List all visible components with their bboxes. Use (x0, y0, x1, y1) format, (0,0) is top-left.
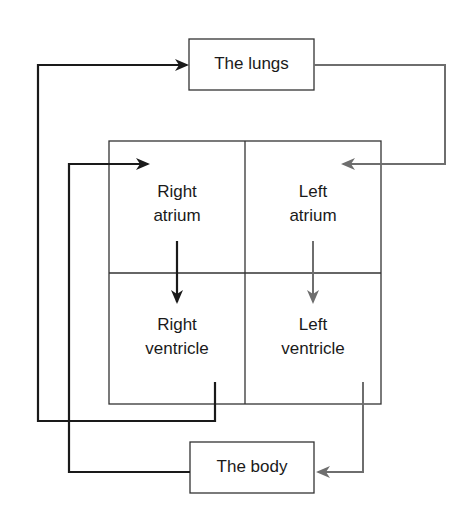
left-atrium-line1: Left (245, 180, 381, 204)
left-ventricle-line2: ventricle (245, 337, 381, 361)
right-ventricle-label: Right ventricle (109, 313, 245, 361)
circulation-diagram (0, 0, 463, 511)
arrow-left-ventricle-to-body (318, 382, 363, 472)
arrow-right-ventricle-to-lungs (38, 65, 215, 421)
left-atrium-line2: atrium (245, 204, 381, 228)
right-ventricle-line1: Right (109, 313, 245, 337)
body-label: The body (190, 455, 314, 479)
right-ventricle-line2: ventricle (109, 337, 245, 361)
right-atrium-label: Right atrium (109, 180, 245, 228)
left-ventricle-line1: Left (245, 313, 381, 337)
arrow-lungs-to-left-atrium (314, 65, 445, 164)
right-atrium-line1: Right (109, 180, 245, 204)
left-ventricle-label: Left ventricle (245, 313, 381, 361)
right-atrium-line2: atrium (109, 204, 245, 228)
lungs-label: The lungs (189, 52, 314, 76)
left-atrium-label: Left atrium (245, 180, 381, 228)
